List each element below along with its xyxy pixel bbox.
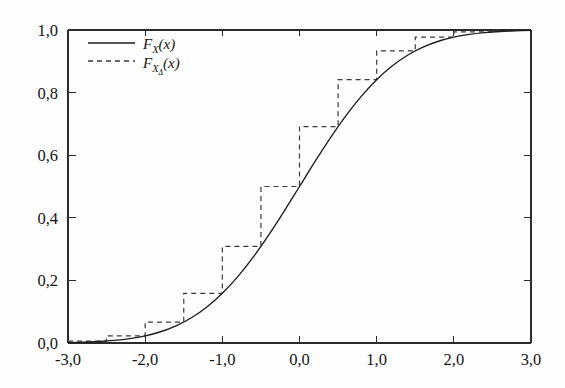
x-tick-label: -1,0 <box>209 350 235 369</box>
y-tick-label: 0,6 <box>37 146 58 165</box>
chart-background <box>0 0 565 388</box>
y-tick-label: 0,4 <box>37 209 58 228</box>
figure-container: -3,0-2,0-1,00,01,02,03,0 0,00,20,40,60,8… <box>0 0 565 388</box>
x-tick-label: 0,0 <box>289 350 310 369</box>
x-tick-label: 3,0 <box>521 350 542 369</box>
y-tick-label: 0,8 <box>37 84 58 103</box>
y-tick-label: 0,2 <box>37 271 58 290</box>
x-tick-label: 1,0 <box>366 350 387 369</box>
cdf-comparison-chart: -3,0-2,0-1,00,01,02,03,0 0,00,20,40,60,8… <box>0 0 565 388</box>
x-tick-label: 2,0 <box>444 350 465 369</box>
y-tick-label: 0,0 <box>37 334 58 353</box>
y-tick-label: 1,0 <box>37 21 58 40</box>
x-tick-label: -2,0 <box>132 350 158 369</box>
x-tick-label: -3,0 <box>55 350 81 369</box>
